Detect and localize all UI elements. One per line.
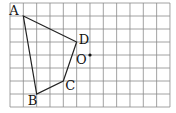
- label-D: D: [79, 32, 89, 47]
- label-O: O: [76, 52, 87, 67]
- label-B: B: [28, 93, 38, 108]
- point-O-dot: [88, 53, 91, 56]
- label-A: A: [8, 3, 19, 18]
- grid-diagram: A B C D O: [0, 0, 176, 113]
- label-C: C: [65, 78, 75, 93]
